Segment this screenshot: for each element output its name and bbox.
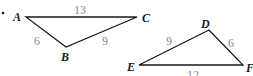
triangle-abc-outline (26, 17, 137, 47)
vertex-label-e: E (126, 60, 135, 74)
side-label-df: 6 (228, 36, 234, 50)
side-label-bc: 9 (102, 34, 108, 48)
vertex-label-a: A (12, 10, 21, 24)
side-label-ef: 12 (187, 68, 199, 76)
vertex-label-f: F (245, 61, 253, 75)
triangle-def: D E F 9 6 12 (126, 17, 253, 76)
vertex-label-d: D (200, 17, 210, 31)
vertex-label-b: B (60, 50, 69, 64)
triangle-abc: A C B 13 6 9 (12, 3, 151, 64)
side-label-ab: 6 (34, 34, 40, 48)
triangles-figure: A C B 13 6 9 D E F 9 6 12 (0, 0, 253, 76)
side-label-ac: 13 (74, 3, 86, 17)
vertex-label-c: C (142, 11, 151, 25)
bullet-dot (2, 12, 5, 15)
side-label-de: 9 (166, 34, 172, 48)
